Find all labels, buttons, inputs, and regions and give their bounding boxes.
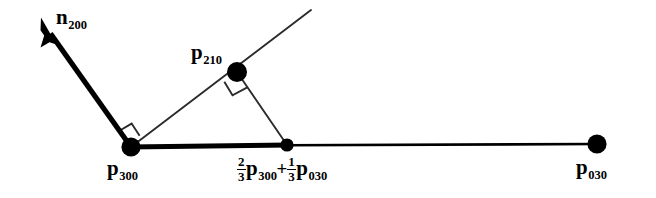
baseline-thin-segment [286, 144, 597, 145]
label-point-p210: p210 [191, 42, 221, 63]
baseline-thick-segment [129, 145, 289, 147]
label-n200-subscript: 200 [68, 18, 87, 32]
label-mid-subscript2: 030 [308, 169, 327, 183]
label-mid-base2: p [296, 156, 308, 180]
normal-vector-arrowhead [41, 18, 57, 48]
fraction-one-third: 1 3 [287, 155, 296, 183]
label-p300-base: p [107, 156, 119, 180]
label-p030-subscript: 030 [588, 168, 607, 182]
label-point-p300: p300 [107, 158, 137, 179]
normal-vector-arrow [41, 18, 132, 148]
label-normal-vector-n200: n200 [56, 7, 86, 28]
label-p030-base: p [576, 155, 588, 179]
fraction-two-thirds-denominator: 3 [237, 169, 246, 184]
normal-vector-shaft [51, 34, 132, 148]
ray-p300-through-p210-line [131, 10, 311, 147]
right-angle-marker-at-p210 [224, 82, 247, 96]
label-p300-subscript: 300 [119, 169, 138, 183]
segment-p210-to-midpoint-line [237, 72, 287, 145]
label-midpoint-barycentric-expression: 2 3 p300+ 1 3 p030 [237, 155, 327, 183]
label-mid-subscript1: 300 [258, 169, 277, 183]
fraction-one-third-denominator: 3 [287, 169, 296, 184]
label-p210-base: p [191, 40, 203, 64]
label-point-p030: p030 [576, 157, 606, 178]
point-dot-p300 [121, 137, 140, 156]
label-n200-base: n [56, 5, 68, 29]
diagram-canvas [0, 0, 656, 198]
fraction-one-third-numerator: 1 [287, 155, 296, 169]
label-mid-plus-operator: + [276, 158, 287, 179]
point-dot-p030 [587, 134, 606, 153]
label-mid-base1: p [246, 156, 258, 180]
point-dot-p210 [227, 62, 247, 82]
fraction-two-thirds-numerator: 2 [237, 155, 246, 169]
label-p210-subscript: 210 [203, 53, 222, 67]
fraction-two-thirds: 2 3 [237, 155, 246, 183]
point-dot-midpoint [280, 138, 293, 151]
